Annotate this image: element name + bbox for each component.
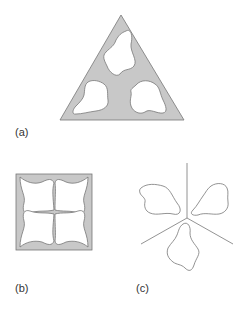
panel-label-b: (b)	[15, 282, 28, 294]
panel-c-partition	[140, 163, 233, 270]
panel-a-triangle	[60, 15, 184, 120]
panel-label-a: (a)	[15, 126, 28, 138]
panel-b-square	[16, 174, 92, 250]
figure-canvas	[0, 0, 239, 311]
panel-label-c: (c)	[136, 282, 149, 294]
